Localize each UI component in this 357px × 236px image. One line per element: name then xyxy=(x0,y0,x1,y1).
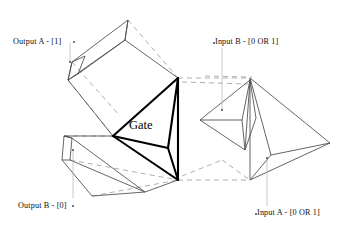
dash-top-rail-3 xyxy=(205,76,252,77)
output-b-edge-b xyxy=(72,138,145,192)
label-output-b: Output B - [0] xyxy=(18,202,67,210)
input-a-edge-top-right xyxy=(250,78,330,143)
output-a-edge-b xyxy=(68,80,113,136)
gate-edge-apex-inner xyxy=(168,78,178,148)
output-a-edge-d xyxy=(125,20,128,40)
tick-dot-output-a-end xyxy=(69,61,71,63)
output-a-edge-a xyxy=(125,40,178,78)
label-gate: Gate xyxy=(129,119,153,132)
label-input-a: Input A - [0 OR 1] xyxy=(257,209,320,217)
output-b-edge-c xyxy=(62,160,92,196)
tick-dot-input-a-end xyxy=(266,157,268,159)
dash-top-rail-2 xyxy=(182,82,248,84)
input-a-edge-inner-3 xyxy=(250,155,271,180)
tick-dot-output-b-end xyxy=(72,149,74,151)
output-a-solid xyxy=(68,20,178,136)
label-output-a: Output A - [1] xyxy=(13,38,61,46)
input-a-edge-bot-right xyxy=(250,143,330,180)
input-a-tetrahedron xyxy=(250,78,330,180)
input-b-edge-3 xyxy=(200,120,245,150)
input-b-edge-7 xyxy=(250,80,256,118)
output-a-face-top xyxy=(68,20,128,80)
dash-bottom-rail-2 xyxy=(182,160,222,176)
output-b-edge-d xyxy=(92,192,145,196)
input-b-edge-1 xyxy=(200,80,250,120)
dash-bottom-rail-3 xyxy=(222,160,250,180)
leader-line-group xyxy=(70,43,267,206)
tick-dot-input-b-end xyxy=(221,109,223,111)
output-b-edge-g xyxy=(145,180,178,192)
input-b-edge-6 xyxy=(242,120,245,150)
tick-dot-output-b-label xyxy=(72,205,74,207)
dash-ul-1 xyxy=(128,20,178,78)
label-input-b: Input B - [0 OR 1] xyxy=(215,38,278,46)
tick-dot-output-a-label xyxy=(73,41,75,43)
output-b-edge-e xyxy=(70,160,145,192)
tick-dot-group xyxy=(69,41,268,215)
input-a-edge-inner-2 xyxy=(271,143,330,155)
output-b-face-front xyxy=(62,136,72,160)
output-b-solid xyxy=(62,136,178,196)
input-b-tetrahedron xyxy=(200,80,256,150)
diagram-canvas: Output A - [1] Output B - [0] Input B - … xyxy=(0,0,357,236)
input-a-edge-inner-1 xyxy=(250,78,271,155)
